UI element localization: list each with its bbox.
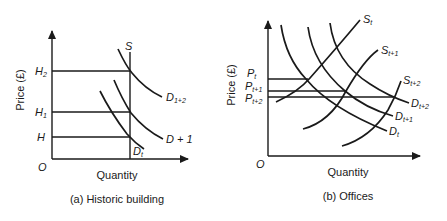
price-label-h2: H2 bbox=[35, 65, 47, 78]
y-axis-label: Price (£) bbox=[14, 69, 26, 111]
origin-label: O bbox=[38, 161, 47, 173]
demand-curve-dt1 bbox=[308, 27, 393, 116]
price-label-pt2: Pt+2 bbox=[245, 92, 262, 105]
supply-label-st: St bbox=[363, 13, 373, 26]
panel-offices: Price (£) Quantity O Pt Pt+1 Pt+2 St St+… bbox=[225, 13, 429, 202]
panel-historic-building: Price (£) Quantity O H2 H1 H S D1+2 D + … bbox=[14, 31, 193, 205]
demand-curve-d-plus-1 bbox=[114, 80, 163, 139]
caption-historic-building: (a) Historic building bbox=[70, 193, 164, 205]
caption-offices: (b) Offices bbox=[323, 190, 374, 202]
price-label-pt: Pt bbox=[247, 67, 257, 80]
demand-label-d-plus-1: D + 1 bbox=[166, 133, 193, 145]
price-label-h: H bbox=[37, 131, 45, 143]
supply-label-st1: St+1 bbox=[381, 44, 398, 57]
demand-label-dt2: Dt+2 bbox=[411, 97, 429, 110]
demand-label-d1-2: D1+2 bbox=[166, 91, 186, 104]
price-label-h1: H1 bbox=[35, 106, 47, 119]
x-axis-label: Quantity bbox=[328, 166, 369, 178]
x-axis-label: Quantity bbox=[97, 169, 138, 181]
diagram-canvas: Price (£) Quantity O H2 H1 H S D1+2 D + … bbox=[0, 0, 447, 221]
demand-curve-d1-2 bbox=[118, 49, 162, 97]
supply-curve-st1 bbox=[303, 50, 378, 129]
origin-label: O bbox=[256, 158, 265, 170]
supply-label-s: S bbox=[125, 40, 133, 52]
demand-label-dt1: Dt+1 bbox=[395, 110, 413, 123]
demand-label-dt: Dt bbox=[389, 125, 400, 138]
supply-label-st2: St+2 bbox=[403, 74, 420, 87]
y-axis-label: Price (£) bbox=[225, 64, 237, 106]
